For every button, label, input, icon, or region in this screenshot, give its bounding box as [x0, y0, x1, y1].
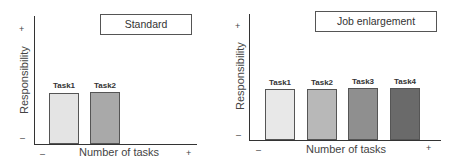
y-axis: [249, 14, 250, 141]
y-axis-label: Responsibility: [18, 46, 30, 114]
bar-label: Task1: [265, 78, 295, 87]
bar-task1: [49, 93, 79, 144]
bar-label: Task3: [348, 77, 378, 86]
x-plus-tick: +: [186, 149, 191, 158]
chart-title-box: Job enlargement: [315, 11, 437, 32]
x-axis-label: Number of tasks: [306, 143, 386, 155]
x-axis: [34, 144, 197, 145]
bar-label: Task4: [390, 77, 420, 86]
bar-label: Task1: [49, 81, 79, 90]
y-minus-tick: –: [236, 131, 241, 140]
x-plus-tick: +: [426, 144, 431, 153]
y-plus-tick: +: [235, 22, 240, 31]
x-minus-tick: –: [256, 146, 261, 155]
job-enlargement-chart: + – – + Responsibility Number of tasks J…: [227, 0, 454, 166]
x-minus-tick: –: [40, 150, 45, 159]
bar-label: Task2: [90, 81, 120, 90]
chart-title-box: Standard: [100, 14, 192, 35]
bar-task3: [348, 88, 378, 140]
y-plus-tick: +: [19, 25, 24, 34]
x-axis-label: Number of tasks: [79, 146, 159, 158]
bar-task2: [90, 92, 120, 144]
bar-label: Task2: [307, 78, 337, 87]
y-axis: [34, 16, 35, 145]
bar-task1: [265, 89, 295, 140]
y-axis-label: Responsibility: [234, 42, 246, 110]
bar-task4: [390, 88, 420, 140]
standard-chart: + – – + Responsibility Number of tasks S…: [0, 0, 227, 166]
bar-task2: [307, 89, 337, 140]
x-axis: [249, 140, 441, 141]
y-minus-tick: –: [20, 134, 25, 143]
